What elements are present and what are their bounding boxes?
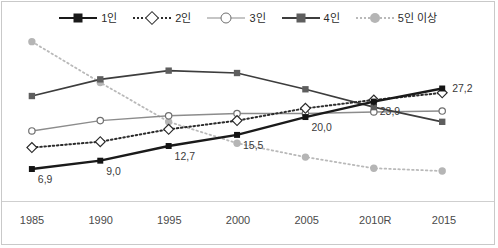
x-tick-2015: 2015	[432, 214, 456, 226]
x-axis: 198519901995200020052010R2015	[2, 201, 494, 244]
data-point-marker	[29, 93, 35, 99]
data-point-marker	[27, 143, 37, 153]
x-tick-1985: 1985	[20, 214, 44, 226]
data-point-label: 27,2	[452, 83, 473, 94]
data-point-marker	[97, 76, 103, 82]
data-point-marker	[232, 116, 242, 126]
x-tick-1990: 1990	[88, 214, 112, 226]
data-point-marker	[371, 99, 377, 105]
data-point-marker	[97, 117, 103, 123]
data-point-marker	[301, 103, 311, 113]
data-point-marker	[165, 67, 171, 73]
data-point-marker	[165, 113, 171, 119]
data-point-marker	[439, 108, 445, 114]
data-point-marker	[29, 166, 35, 172]
series-line	[32, 88, 442, 169]
x-tick-1995: 1995	[157, 214, 181, 226]
data-point-label: 12,7	[175, 151, 196, 162]
data-point-marker	[233, 140, 240, 147]
data-point-marker	[370, 165, 377, 172]
data-point-label: 15,5	[243, 140, 264, 151]
x-tick-2000: 2000	[226, 214, 250, 226]
data-point-marker	[95, 137, 105, 147]
data-point-label: 9,0	[106, 166, 121, 177]
data-point-marker	[302, 114, 308, 120]
series-1인	[29, 86, 445, 172]
data-point-marker	[164, 124, 174, 134]
data-point-label: 23,9	[380, 106, 401, 117]
x-tick-2005: 2005	[294, 214, 318, 226]
data-point-marker	[439, 167, 446, 174]
data-point-marker	[234, 132, 240, 138]
data-point-marker	[29, 128, 35, 134]
data-point-marker	[166, 143, 172, 149]
data-point-marker	[302, 86, 308, 92]
data-point-marker	[28, 38, 35, 45]
data-point-marker	[234, 70, 240, 76]
data-point-label: 20,0	[311, 122, 332, 133]
data-point-marker	[439, 119, 445, 125]
data-point-marker	[97, 158, 103, 164]
x-axis-tick-labels: 198519901995200020052010R2015	[2, 202, 494, 244]
data-point-marker	[439, 86, 445, 92]
data-point-marker	[302, 153, 309, 160]
x-tick-2010R: 2010R	[359, 214, 391, 226]
data-point-label: 6,9	[38, 174, 53, 185]
chart-frame: 1인 2인 3인 4인	[1, 1, 495, 245]
